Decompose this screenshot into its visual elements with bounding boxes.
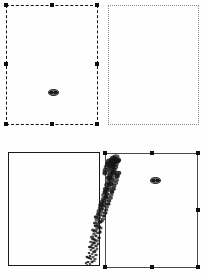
bottom-right-panel-handle-bottom-center[interactable] bbox=[150, 265, 154, 269]
top-left-panel-handle-top-center[interactable] bbox=[50, 3, 54, 7]
bottom-right-panel-handle-mid-right[interactable] bbox=[196, 208, 200, 212]
top-left-panel-handle-bottom-left[interactable] bbox=[4, 122, 8, 126]
selection-handles-layer bbox=[0, 0, 205, 277]
bottom-right-panel-handle-top-center[interactable] bbox=[150, 151, 154, 155]
figure-canvas bbox=[0, 0, 205, 277]
bottom-right-panel-handle-top-left[interactable] bbox=[103, 151, 107, 155]
top-left-panel-handle-top-right[interactable] bbox=[95, 3, 99, 7]
top-left-panel-handle-top-left[interactable] bbox=[4, 3, 8, 7]
top-left-panel-handle-mid-right[interactable] bbox=[95, 62, 99, 66]
bottom-right-panel-handle-bottom-right[interactable] bbox=[196, 265, 200, 269]
bottom-right-panel-handle-top-right[interactable] bbox=[196, 151, 200, 155]
top-left-panel-handle-mid-left[interactable] bbox=[4, 62, 8, 66]
top-left-panel-handle-bottom-center[interactable] bbox=[50, 122, 54, 126]
bottom-right-panel-handle-bottom-left[interactable] bbox=[103, 265, 107, 269]
top-left-panel-handle-bottom-right[interactable] bbox=[95, 122, 99, 126]
